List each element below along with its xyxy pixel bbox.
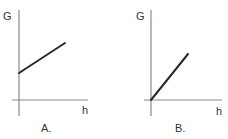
panel-a-line [19,43,65,73]
panel-b-y-label: G [136,10,145,22]
panel-b-caption: B. [175,122,185,134]
panel-a: G h A. [3,10,88,134]
graphs-figure: G h A. G h B. [0,0,228,139]
panel-a-caption: A. [41,122,51,134]
panel-a-x-label: h [82,104,88,116]
panel-a-y-label: G [3,10,12,22]
panel-b-line [151,54,188,100]
panel-b: G h B. [136,10,222,134]
panel-b-x-label: h [216,105,222,117]
